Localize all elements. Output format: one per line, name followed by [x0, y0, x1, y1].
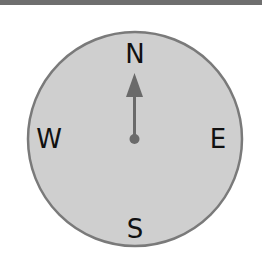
- label-north: N: [125, 39, 144, 69]
- label-south: S: [127, 214, 144, 244]
- needle-pivot: [130, 134, 140, 144]
- label-west: W: [36, 124, 62, 154]
- compass-diagram: N S E W: [0, 0, 262, 255]
- label-east: E: [210, 124, 226, 154]
